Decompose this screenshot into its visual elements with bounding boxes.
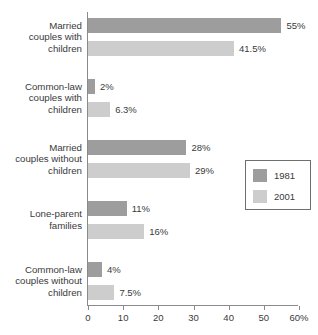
bar-row: 2% <box>88 79 318 94</box>
x-axis-tick-label: 40 <box>223 312 234 323</box>
x-axis-tick-label: 30 <box>188 312 199 323</box>
category-label: Common-lawcouples withchildren <box>0 81 82 116</box>
category-label-line: Lone-parent <box>0 208 82 220</box>
category-label: Marriedcouples withoutchildren <box>0 142 82 177</box>
category-label: Common-lawcouples withoutchildren <box>0 264 82 299</box>
category-label-line: families <box>0 220 82 232</box>
category-label-line: children <box>0 287 82 299</box>
x-axis-tick <box>229 306 230 310</box>
category-label: Marriedcouples withchildren <box>0 20 82 55</box>
bar-1981[interactable] <box>88 18 281 33</box>
category-label-line: couples without <box>0 153 82 165</box>
category-label-line: couples with <box>0 92 82 104</box>
x-axis-line <box>87 305 298 306</box>
bar-1981[interactable] <box>88 140 186 155</box>
bar-2001[interactable] <box>88 102 110 117</box>
x-axis-tick-label: 20 <box>153 312 164 323</box>
legend-label: 1981 <box>274 169 295 182</box>
bar-chart: 0102030405060% Marriedcouples withchildr… <box>0 0 318 335</box>
bar-group: Common-lawcouples withoutchildren4%7.5% <box>0 262 318 300</box>
x-axis-tick-label: 0 <box>85 312 90 323</box>
category-label-line: Married <box>0 20 82 32</box>
category-label: Lone-parentfamilies <box>0 208 82 231</box>
category-label-line: Common-law <box>0 264 82 276</box>
bar-row: 28% <box>88 140 318 155</box>
bar-row: 16% <box>88 224 318 239</box>
bar-2001[interactable] <box>88 41 234 56</box>
bar-2001[interactable] <box>88 163 190 178</box>
x-axis-tick <box>194 306 195 310</box>
bar-2001[interactable] <box>88 224 144 239</box>
bar-value-label: 4% <box>107 263 121 276</box>
x-axis-tick-label: 50 <box>259 312 270 323</box>
bar-value-label: 55% <box>286 19 305 32</box>
bar-value-label: 7.5% <box>119 286 141 299</box>
bar-value-label: 2% <box>100 80 114 93</box>
bar-value-label: 41.5% <box>239 42 266 55</box>
legend-label: 2001 <box>274 190 295 203</box>
category-label-line: Married <box>0 142 82 154</box>
bar-row: 55% <box>88 18 318 33</box>
bar-row: 4% <box>88 262 318 277</box>
legend-swatch-icon <box>253 169 267 182</box>
chart-legend: 19812001 <box>245 160 311 210</box>
bar-group: Common-lawcouples withchildren2%6.3% <box>0 79 318 117</box>
bar-value-label: 11% <box>132 202 150 215</box>
legend-swatch-icon <box>253 190 267 203</box>
category-label-line: children <box>0 104 82 116</box>
bar-2001[interactable] <box>88 285 114 300</box>
category-label-line: children <box>0 165 82 177</box>
x-axis-tick-label: 10 <box>118 312 129 323</box>
bar-value-label: 29% <box>195 164 214 177</box>
category-label-line: couples with <box>0 31 82 43</box>
bar-row: 7.5% <box>88 285 318 300</box>
category-label-line: couples without <box>0 275 82 287</box>
x-axis-tick <box>123 306 124 310</box>
category-label-line: children <box>0 43 82 55</box>
bar-row: 41.5% <box>88 41 318 56</box>
x-axis-tick-label: 60% <box>289 312 308 323</box>
category-label-line: Common-law <box>0 81 82 93</box>
x-axis-tick <box>88 306 89 310</box>
x-axis-tick <box>264 306 265 310</box>
bar-1981[interactable] <box>88 262 102 277</box>
bar-value-label: 6.3% <box>115 103 137 116</box>
bar-1981[interactable] <box>88 201 127 216</box>
bar-value-label: 16% <box>149 225 168 238</box>
x-axis-tick <box>158 306 159 310</box>
bar-row: 6.3% <box>88 102 318 117</box>
bar-value-label: 28% <box>191 141 210 154</box>
x-axis-tick <box>299 306 300 310</box>
bar-group: Marriedcouples withchildren55%41.5% <box>0 18 318 56</box>
bar-1981[interactable] <box>88 79 95 94</box>
